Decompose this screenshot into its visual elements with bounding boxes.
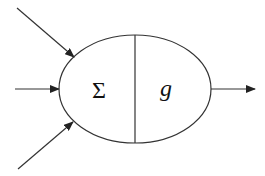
neuron-diagram: Σ g	[0, 0, 265, 176]
input-arrow-bottom	[18, 122, 73, 169]
activation-label: g	[160, 75, 172, 101]
summation-label: Σ	[92, 77, 106, 103]
input-arrow-top	[17, 8, 74, 57]
